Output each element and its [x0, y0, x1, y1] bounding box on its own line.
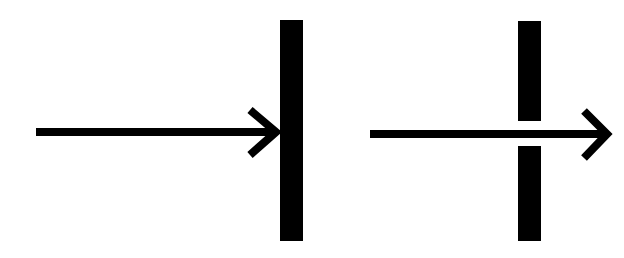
solid-barrier — [280, 20, 303, 241]
panel-pass-through — [370, 21, 607, 241]
panel-blocked — [36, 20, 303, 241]
barrier-top-segment — [518, 21, 541, 121]
barrier-bottom-segment — [518, 146, 541, 241]
diagram-canvas — [0, 0, 624, 258]
